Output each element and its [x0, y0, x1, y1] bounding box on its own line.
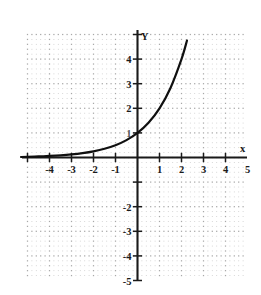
x-tick-label: -4	[45, 164, 54, 175]
x-tick-label: 4	[223, 164, 229, 175]
x-tick-label: 1	[157, 164, 162, 175]
y-tick-label: 1	[126, 128, 131, 139]
y-tick-label: -5	[123, 276, 132, 287]
x-tick-label: 2	[179, 164, 184, 175]
y-tick-label: -2	[123, 202, 132, 213]
y-tick-label: 3	[126, 79, 131, 90]
x-tick-label: 5	[245, 164, 250, 175]
y-tick-label: 4	[126, 54, 132, 65]
graph-figure: -4-3-2-1123454321-2-3-4-5 Y x	[0, 0, 261, 295]
x-tick-label: -1	[111, 164, 120, 175]
y-tick-label: 2	[126, 103, 131, 114]
y-tick-label: -3	[123, 226, 132, 237]
x-axis-label: x	[240, 143, 246, 154]
x-tick-label: 3	[201, 164, 206, 175]
y-axis-label: Y	[141, 31, 149, 42]
y-tick-label: -4	[123, 251, 132, 262]
x-tick-label: -3	[67, 164, 76, 175]
coordinate-plane-svg: -4-3-2-1123454321-2-3-4-5 Y x	[0, 0, 261, 295]
x-tick-label: -2	[89, 164, 98, 175]
